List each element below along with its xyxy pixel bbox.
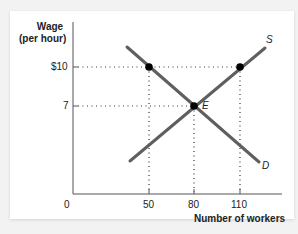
equilibrium-label: E [202,100,209,111]
y-axis-label-line1: Wage [30,21,70,32]
x-tick-label-50: 50 [143,199,154,210]
point-equilibrium [190,102,198,110]
supply-label: S [266,34,273,45]
y-tick-label-7: 7 [63,100,69,111]
y-tick-label-10: $10 [51,61,68,72]
x-origin-label: 0 [64,199,70,210]
x-tick-label-80: 80 [188,199,199,210]
demand-label: D [262,160,269,171]
point-supply-110-10 [236,63,244,71]
x-tick-label-110: 110 [231,199,247,210]
y-axis-label-line2: (per hour) [19,33,66,44]
point-demand-50-10 [145,63,153,71]
guide-lines [78,67,240,192]
x-axis-label: Number of workers [194,213,285,224]
